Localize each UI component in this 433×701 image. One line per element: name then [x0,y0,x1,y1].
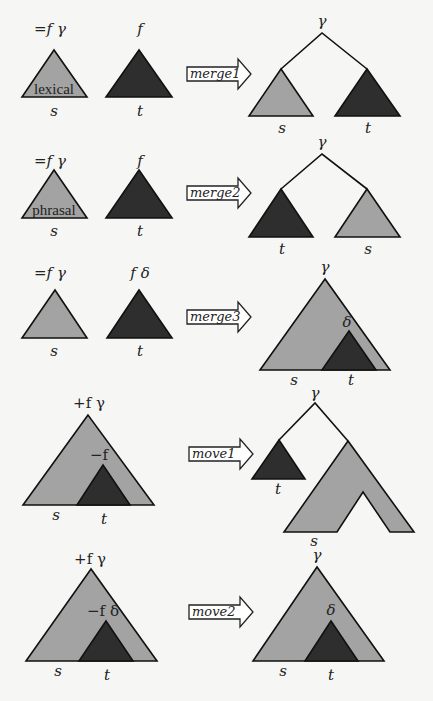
row-move2: +f γ −f δ s t move2 γ δ s t [26,546,384,684]
s-features: =f γ [34,20,66,38]
result-inner-feature: δ [326,601,335,619]
operation-label: merge2 [190,185,241,200]
operation-label: merge3 [190,309,241,324]
result-left-label: s [279,662,287,680]
result-root: γ [318,12,327,30]
move1-arrow: move1 [189,439,253,469]
s-features: =f γ [34,264,66,282]
t-features: f [136,20,145,38]
t-label: t [137,222,144,240]
result-right-label: t [348,371,355,389]
root-features: +f γ [73,394,105,412]
row-merge2: =f γ phrasal s f t merge2 γ t s [22,133,400,258]
root-edges [281,33,367,69]
result-right-label: s [364,240,372,258]
s-label: s [52,506,60,524]
t-label: t [137,342,144,360]
t-label: t [101,510,108,528]
operation-label: move1 [192,446,235,461]
move2-arrow: move2 [189,597,253,627]
row-move1: +f γ −f s t move1 γ t s [23,384,414,550]
merge1-arrow: merge1 [187,59,251,89]
result-left-label: t [279,240,286,258]
result-s-tree [249,69,313,116]
result-t-tree [335,69,400,116]
merge-move-diagram: =f γ lexical s f t merge1 γ s t =f γ phr… [0,0,433,701]
t-features: f [136,152,145,170]
result-right-label: t [328,666,335,684]
merge3-arrow: merge3 [187,302,251,332]
root-edges [279,403,348,441]
result-s-tree [260,279,390,370]
result-right-label: t [365,119,372,137]
operation-label: move2 [192,604,235,619]
t-label: t [137,102,144,120]
t-label: t [104,666,111,684]
result-root: γ [321,258,330,276]
result-s-tree-with-gap [284,441,414,532]
result-inner-feature: δ [342,313,351,331]
result-root: γ [311,384,320,402]
result-root: γ [313,546,322,564]
t-tree [107,290,172,338]
result-t-tree [252,440,305,479]
result-root: γ [318,133,327,151]
result-s-tree [335,189,400,237]
s-features: =f γ [34,152,66,170]
result-left-label: s [278,119,286,137]
s-type-label: phrasal [32,202,75,218]
s-label: s [50,342,58,360]
t-tree [106,50,172,97]
root-features: +f γ [74,550,106,568]
operation-label: merge1 [190,66,241,81]
s-label: s [54,662,62,680]
result-left-label: t [275,480,282,498]
result-left-label: s [290,371,298,389]
row-merge3: =f γ s f δ t merge3 γ δ s t [22,258,390,389]
inner-features: −f δ [87,602,119,620]
merge2-arrow: merge2 [187,178,251,208]
row-merge1: =f γ lexical s f t merge1 γ s t [22,12,400,137]
result-t-tree [249,189,313,237]
s-type-label: lexical [34,81,74,97]
root-edges [281,154,367,189]
s-tree [22,290,87,338]
t-tree [106,170,172,218]
s-label: s [50,102,58,120]
s-label: s [50,222,58,240]
inner-features: −f [90,446,110,464]
t-features: f δ [129,264,149,282]
